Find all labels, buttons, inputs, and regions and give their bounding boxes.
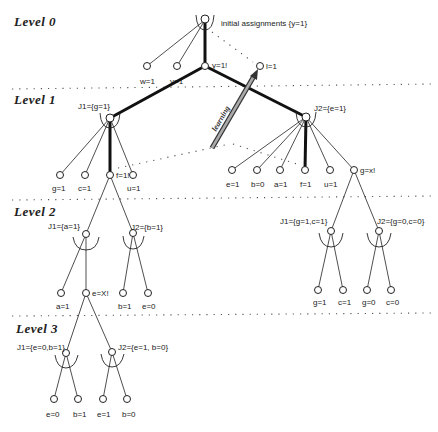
label-g1: g=1 — [52, 184, 66, 193]
node-j2-level1 — [302, 113, 310, 121]
root-annotation: initial assignments {y=1} — [221, 19, 307, 28]
node-l3-b1 — [75, 396, 82, 403]
label-j2-level1: J2={e=1} — [314, 104, 346, 113]
level-1-label: Level 1 — [13, 92, 56, 107]
level-3-label: Level 3 — [15, 321, 58, 336]
label-u1-right: u=1 — [324, 180, 338, 189]
node-j1-level1 — [106, 114, 114, 122]
node-gx — [351, 167, 358, 174]
label-f1: f=1! — [116, 171, 130, 180]
label-l3-e1: e=1 — [97, 410, 111, 419]
label-r2-c0: c=0 — [386, 298, 400, 307]
node-r2-g1 — [315, 287, 322, 294]
label-l2-j1: J1={a=1} — [48, 222, 80, 231]
label-e1: e=1 — [226, 180, 240, 189]
node-g1 — [57, 172, 64, 179]
node-l2-b1 — [120, 290, 127, 297]
label-r2-g0: g=0 — [362, 298, 376, 307]
level-separator-2-3 — [12, 313, 432, 316]
node-learned-l — [257, 63, 264, 70]
learning-link-root — [212, 32, 253, 62]
label-l3-j1: J1={e=0,b=1} — [17, 343, 65, 352]
and-arc-r2-j1 — [319, 233, 343, 247]
root-node — [201, 15, 209, 23]
label-u1: u=1 — [127, 184, 141, 193]
and-arc-l2-j2 — [123, 236, 144, 249]
level-2-label: Level 2 — [13, 204, 56, 219]
label-gx: g=x! — [360, 166, 375, 175]
label-r2-c1: c=1 — [338, 298, 352, 307]
label-j1-level1: J1={g=1} — [78, 102, 110, 111]
node-w — [144, 63, 151, 70]
label-l2-a1: a=1 — [56, 302, 70, 311]
label-r2-g1: g=1 — [313, 298, 327, 307]
node-l3-b0 — [124, 396, 131, 403]
node-u1-right — [327, 167, 334, 174]
node-f1 — [107, 172, 114, 179]
label-l2-e0: e=0 — [142, 302, 156, 311]
level-separator-1-2 — [12, 196, 432, 200]
label-f1-right: f=1 — [300, 180, 312, 189]
node-f1-right — [302, 167, 309, 174]
label-l2-ex: e=X! — [92, 289, 109, 298]
node-e1 — [229, 167, 236, 174]
learning-link-f — [118, 145, 225, 168]
node-u1 — [130, 172, 137, 179]
node-c1 — [82, 172, 89, 179]
label-learned-l: l=1 — [266, 62, 277, 71]
node-r2-j1 — [328, 228, 335, 235]
label-w: w=1 — [139, 77, 155, 86]
label-l3-j2: J2={e=1, b=0} — [118, 343, 168, 352]
label-y: y=1! — [212, 61, 227, 70]
node-b0 — [254, 167, 261, 174]
label-l2-j2: J2={b=1} — [131, 223, 163, 232]
label-a1: a=1 — [274, 180, 288, 189]
search-tree-diagram: Level 0 Level 1 Level 2 Level 3 initial … — [0, 0, 438, 432]
node-l2-e0 — [145, 290, 152, 297]
label-l2-b1: b=1 — [118, 302, 132, 311]
node-a1 — [277, 167, 284, 174]
label-l3-b1: b=1 — [73, 410, 87, 419]
node-l3-j2 — [109, 349, 116, 356]
node-l2-ex — [83, 290, 90, 297]
label-l3-b0: b=0 — [122, 410, 136, 419]
label-r2-j1: J1={g=1,c=1} — [280, 217, 328, 226]
level-separator-0-1 — [12, 84, 432, 89]
node-l3-e1 — [100, 396, 107, 403]
and-arc-r2-j2 — [367, 233, 391, 247]
node-l3-e0 — [51, 396, 58, 403]
label-b0: b=0 — [251, 180, 265, 189]
node-r2-c1 — [340, 287, 347, 294]
node-r2-j2 — [376, 228, 383, 235]
node-r2-g0 — [364, 287, 371, 294]
node-v — [174, 63, 181, 70]
node-l2-j1 — [83, 231, 90, 238]
node-l2-a1 — [58, 290, 65, 297]
node-y — [202, 63, 209, 70]
label-c1: c=1 — [78, 184, 92, 193]
label-r2-j2: J2={g=0,c=0} — [377, 217, 425, 226]
label-l3-e0: e=0 — [46, 410, 60, 419]
node-r2-c0 — [388, 287, 395, 294]
level-0-label: Level 0 — [13, 14, 56, 29]
